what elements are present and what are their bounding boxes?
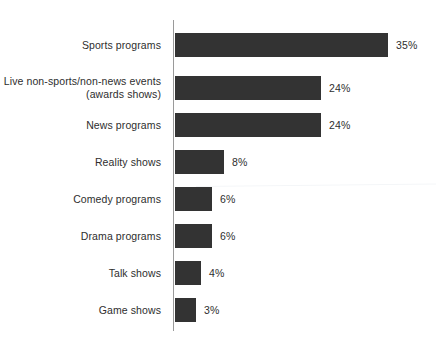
value-label: 6% bbox=[220, 187, 236, 211]
bar-row: Comedy programs 6% bbox=[0, 187, 440, 211]
bar-row: Live non-sports/non-news events (awards … bbox=[0, 76, 440, 100]
category-label: Drama programs bbox=[0, 224, 166, 248]
bar-row: News programs 24% bbox=[0, 113, 440, 137]
category-label: Comedy programs bbox=[0, 187, 166, 211]
bar-news-programs bbox=[175, 113, 321, 137]
value-label: 3% bbox=[204, 298, 220, 322]
bar-live-non-sports-non-news-events bbox=[175, 76, 321, 100]
bar-row: Reality shows 8% bbox=[0, 150, 440, 174]
category-label: Talk shows bbox=[0, 261, 166, 285]
bar-game-shows bbox=[175, 298, 196, 322]
bar-row: Sports programs 35% bbox=[0, 33, 440, 57]
category-label: Live non-sports/non-news events (awards … bbox=[0, 76, 166, 100]
plot-area: Sports programs 35% Live non-sports/non-… bbox=[0, 0, 440, 351]
bar-row: Game shows 3% bbox=[0, 298, 440, 322]
bar-sports-programs bbox=[175, 33, 388, 57]
value-label: 35% bbox=[396, 33, 418, 57]
value-label: 6% bbox=[220, 224, 236, 248]
bar-row: Talk shows 4% bbox=[0, 261, 440, 285]
category-label: News programs bbox=[0, 113, 166, 137]
bar-talk-shows bbox=[175, 261, 201, 285]
category-label: Game shows bbox=[0, 298, 166, 322]
bar-comedy-programs bbox=[175, 187, 212, 211]
bar-chart: Sports programs 35% Live non-sports/non-… bbox=[0, 0, 440, 351]
category-label: Sports programs bbox=[0, 33, 166, 57]
value-label: 24% bbox=[329, 113, 351, 137]
category-label: Reality shows bbox=[0, 150, 166, 174]
value-label: 4% bbox=[209, 261, 225, 285]
bar-reality-shows bbox=[175, 150, 224, 174]
value-label: 8% bbox=[232, 150, 248, 174]
value-label: 24% bbox=[329, 76, 351, 100]
bar-row: Drama programs 6% bbox=[0, 224, 440, 248]
bar-drama-programs bbox=[175, 224, 212, 248]
